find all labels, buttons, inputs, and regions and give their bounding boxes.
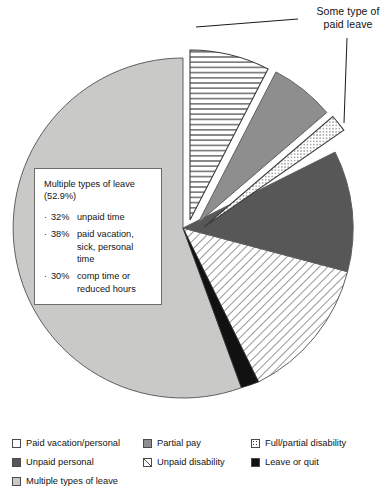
legend-item-unpaid-disability[interactable]: Unpaid disability <box>143 453 225 472</box>
legend-column-3: Full/partial disability Leave or quit <box>251 434 346 472</box>
legend-item-full-partial-disability[interactable]: Full/partial disability <box>251 434 346 453</box>
infobox-row-pct: 38% <box>51 228 77 265</box>
multiple-types-infobox: Multiple types of leave (52.9%) · 32% un… <box>34 168 162 305</box>
callout-line-1: Some type of <box>307 5 389 18</box>
full-partial-disability-swatch-icon <box>251 439 260 448</box>
multiple-types-swatch-icon <box>12 477 21 486</box>
legend-label: Multiple types of leave <box>26 476 118 487</box>
callout-label: Some type of paid leave <box>307 5 389 31</box>
legend-label: Unpaid disability <box>157 457 225 468</box>
callout-line-2: paid leave <box>307 18 389 31</box>
bullet-icon: · <box>44 270 51 295</box>
legend-label: Full/partial disability <box>265 438 346 449</box>
infobox-row: · 32% unpaid time <box>44 211 153 223</box>
infobox-list: · 32% unpaid time · 38% paid vacation, s… <box>44 211 153 295</box>
legend-label: Unpaid personal <box>26 457 94 468</box>
callout-leader-line-lower <box>344 38 347 123</box>
infobox-row: · 38% paid vacation, sick, personal time <box>44 228 153 265</box>
legend-label: Leave or quit <box>265 457 319 468</box>
pie-chart-figure: Some type of paid leave Multiple types o… <box>0 0 390 488</box>
infobox-row-text: unpaid time <box>77 211 153 223</box>
legend-item-multiple-types-of-leave[interactable]: Multiple types of leave <box>12 472 120 488</box>
infobox-heading: Multiple types of leave (52.9%) <box>44 178 153 203</box>
legend-item-partial-pay[interactable]: Partial pay <box>143 434 225 453</box>
legend-label: Partial pay <box>157 438 201 449</box>
legend-label: Paid vacation/personal <box>26 438 120 449</box>
paid-vacation-swatch-icon <box>12 439 21 448</box>
infobox-row-pct: 32% <box>51 211 77 223</box>
legend-column-2: Partial pay Unpaid disability <box>143 434 225 472</box>
bullet-icon: · <box>44 211 51 223</box>
legend-item-unpaid-personal[interactable]: Unpaid personal <box>12 453 120 472</box>
partial-pay-swatch-icon <box>143 439 152 448</box>
bullet-icon: · <box>44 228 51 265</box>
legend-column-1: Paid vacation/personal Unpaid personal M… <box>12 434 120 488</box>
legend-item-leave-or-quit[interactable]: Leave or quit <box>251 453 346 472</box>
callout-leader-line-upper <box>196 19 298 27</box>
leave-or-quit-swatch-icon <box>251 458 260 467</box>
infobox-row: · 30% comp time or reduced hours <box>44 270 153 295</box>
unpaid-personal-swatch-icon <box>12 458 21 467</box>
infobox-row-text: comp time or reduced hours <box>77 270 153 295</box>
chart-legend: Paid vacation/personal Unpaid personal M… <box>0 425 390 488</box>
infobox-row-pct: 30% <box>51 270 77 295</box>
legend-item-paid-vacation-personal[interactable]: Paid vacation/personal <box>12 434 120 453</box>
infobox-row-text: paid vacation, sick, personal time <box>77 228 153 265</box>
unpaid-disability-swatch-icon <box>143 458 152 467</box>
